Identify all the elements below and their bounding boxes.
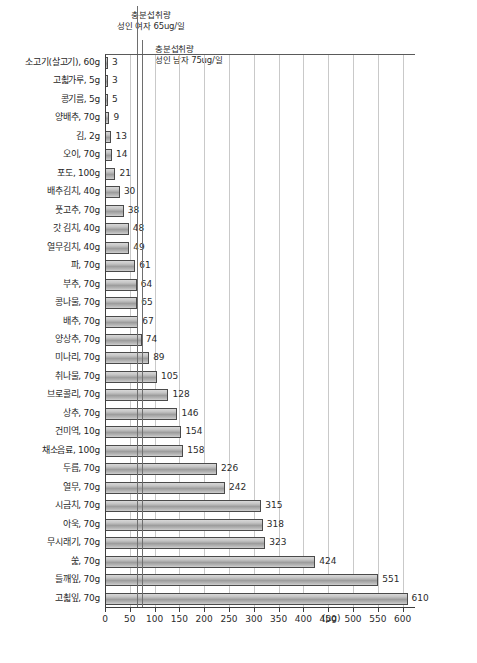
x-tick-label: 600 (394, 613, 411, 625)
category-label: 두릅, 70g (63, 461, 100, 476)
category-label: 열무, 70g (63, 480, 100, 495)
bar-value-label: 242 (229, 481, 246, 494)
x-tick-600 (403, 608, 404, 612)
bar-row: 열무, 70g242 (105, 479, 415, 497)
bar-row: 콩기름, 5g5 (105, 91, 415, 109)
bar-value-label: 74 (146, 333, 157, 346)
category-label: 김, 2g (76, 129, 100, 144)
reference-note-female-line1: 충분섭취량 (105, 10, 197, 21)
bar (105, 260, 135, 272)
x-tick-label: 50 (124, 613, 135, 625)
category-label: 고쵧잎, 70g (55, 591, 100, 606)
bar-row: 풋고추, 70g38 (105, 202, 415, 220)
x-tick-label: 400 (295, 613, 312, 625)
x-tick-400 (303, 608, 304, 612)
category-label: 상추, 70g (63, 406, 100, 421)
bar-row: 포도, 100g21 (105, 165, 415, 183)
bar (105, 297, 137, 309)
vitamin-k-bar-chart: 충분섭취량 성인 여자 65ug/일 충분섭취량 성인 남자 75ug/일 소고… (0, 0, 477, 663)
bar-value-label: 5 (112, 93, 118, 106)
x-tick-200 (204, 608, 205, 612)
bar-value-label: 21 (119, 167, 130, 180)
category-label: 부추, 70g (63, 277, 100, 292)
bar-value-label: 61 (139, 259, 150, 272)
reference-note-female: 충분섭취량 성인 여자 65ug/일 (105, 10, 197, 32)
category-label: 쑱, 70g (71, 554, 100, 569)
category-label: 들깨잎, 70g (55, 572, 100, 587)
bar-value-label: 158 (187, 444, 204, 457)
category-label: 미나리, 70g (55, 350, 100, 365)
bar (105, 482, 225, 494)
bar-row: 상추, 70g146 (105, 405, 415, 423)
bar-row: 채소음료, 100g158 (105, 442, 415, 460)
x-tick-250 (229, 608, 230, 612)
category-label: 콩나물, 70g (55, 295, 100, 310)
bar (105, 334, 142, 346)
bar-row: 배추김치, 40g30 (105, 183, 415, 201)
bar-value-label: 14 (116, 148, 127, 161)
bar-row: 갓 김치, 40g48 (105, 220, 415, 238)
bar-row: 쑱, 70g424 (105, 553, 415, 571)
bar (105, 94, 108, 106)
bar (105, 205, 124, 217)
category-label: 브로콜리, 70g (47, 387, 100, 402)
bar-row: 양상추, 70g74 (105, 331, 415, 349)
bar-row: 김, 2g13 (105, 128, 415, 146)
bar (105, 463, 217, 475)
bar-row: 아욱, 70g318 (105, 516, 415, 534)
x-tick-500 (353, 608, 354, 612)
bar-value-label: 89 (153, 351, 164, 364)
category-label: 열무김치, 40g (47, 240, 100, 255)
bar-row: 건미역, 10g154 (105, 423, 415, 441)
bar (105, 57, 108, 69)
x-tick-label: 300 (245, 613, 262, 625)
bar-row: 두릅, 70g226 (105, 460, 415, 478)
x-tick-150 (179, 608, 180, 612)
bar-value-label: 13 (115, 130, 126, 143)
bar-row: 무시래기, 70g323 (105, 534, 415, 552)
x-tick-450 (328, 608, 329, 612)
reference-note-female-line2: 성인 여자 65ug/일 (105, 21, 197, 32)
plot-area: 소고기(살고기), 60g3고쵧가루, 5g3콩기름, 5g5양배추, 70g9… (105, 54, 415, 608)
bar (105, 537, 265, 549)
bar-row: 고쵧잎, 70g610 (105, 590, 415, 608)
bar (105, 75, 108, 87)
x-tick-label: 100 (146, 613, 163, 625)
category-label: 건미역, 10g (55, 424, 100, 439)
bar-row: 열무김치, 40g49 (105, 239, 415, 257)
bar-row: 고쵧가루, 5g3 (105, 72, 415, 90)
bar-value-label: 105 (161, 370, 178, 383)
category-label: 양상추, 70g (55, 332, 100, 347)
bar (105, 242, 129, 254)
category-label: 시금치, 70g (55, 498, 100, 513)
bar-row: 들깨잎, 70g551 (105, 571, 415, 589)
category-label: 배추김치, 40g (47, 184, 100, 199)
bar-value-label: 30 (124, 185, 135, 198)
bar (105, 500, 261, 512)
bar (105, 112, 109, 124)
x-axis-unit-label: (µg) (322, 613, 340, 623)
x-tick-100 (155, 608, 156, 612)
bar-row: 콩나물, 70g65 (105, 294, 415, 312)
x-axis: 050100150200250300350400450500550600 (105, 608, 415, 634)
x-tick-label: 550 (369, 613, 386, 625)
category-label: 무시래기, 70g (47, 535, 100, 550)
bar (105, 445, 183, 457)
bar-row: 파, 70g61 (105, 257, 415, 275)
x-tick-350 (279, 608, 280, 612)
x-tick-0 (105, 608, 106, 612)
x-tick-300 (254, 608, 255, 612)
category-label: 양배추, 70g (55, 110, 100, 125)
bar-row: 배추, 70g67 (105, 313, 415, 331)
bar-row: 취나물, 70g105 (105, 368, 415, 386)
bar-value-label: 9 (113, 111, 119, 124)
bar-value-label: 551 (382, 573, 399, 586)
category-label: 채소음료, 100g (42, 443, 100, 458)
bar (105, 186, 120, 198)
bar-value-label: 318 (267, 518, 284, 531)
bar-value-label: 424 (319, 555, 336, 568)
bar (105, 371, 157, 383)
bar (105, 149, 112, 161)
bar-value-label: 315 (265, 499, 282, 512)
bar (105, 574, 378, 586)
